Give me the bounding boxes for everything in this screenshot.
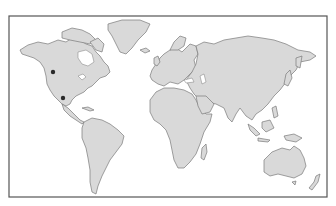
world-map — [0, 0, 336, 206]
world-map-svg — [0, 0, 336, 206]
location-marker-2[interactable] — [61, 96, 65, 100]
location-marker-1[interactable] — [51, 70, 55, 74]
